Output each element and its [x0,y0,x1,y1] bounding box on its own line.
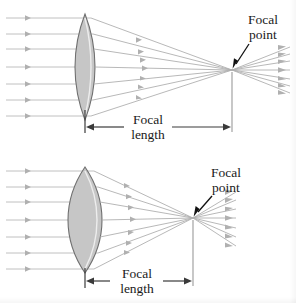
incoming-rays-top [6,15,79,119]
panel-bottom: Focal length Focal point [6,165,241,296]
focal-point-label-bottom-line1: Focal [211,165,241,180]
lens-top [75,14,95,120]
focal-point-callout-top [233,44,249,69]
converging-rays-bottom [94,171,193,269]
panel-top: Focal length Focal point [6,12,290,142]
converging-rays-top [91,18,232,116]
focal-point-label-top-line1: Focal [248,12,278,27]
incoming-ray-arrowheads-top [25,15,31,119]
diverging-rays-top [232,45,290,95]
focal-length-label-bottom-line2: length [120,281,154,296]
converging-ray-arrowheads-bottom [124,183,136,255]
incoming-ray-arrowheads-bottom [25,168,31,272]
lens-focal-length-figure: Focal length Focal point [0,0,296,303]
focal-point-label-top-line2: point [249,27,277,42]
diverging-rays-bottom [193,190,236,248]
figure-canvas: Focal length Focal point [0,0,296,303]
focal-length-label-top-line2: length [131,127,165,142]
focal-length-label-bottom-line1: Focal [122,266,152,281]
diverging-ray-arrowheads-bottom [225,190,233,248]
focal-point-label-bottom-line2: point [212,180,240,195]
incoming-rays-bottom [6,168,76,272]
focal-length-label-top-line1: Focal [133,112,163,127]
diverging-ray-arrowheads-top [278,45,286,95]
